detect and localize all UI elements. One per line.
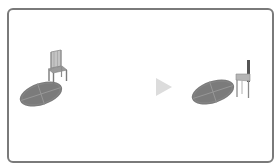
cropped-caption [20, 0, 260, 2]
chair-side-icon [236, 60, 250, 98]
left-scene [14, 44, 94, 116]
rug-and-chair-after-icon [186, 52, 262, 114]
rug-icon [17, 77, 66, 112]
right-scene [186, 52, 262, 114]
rug-and-chair-before-icon [14, 44, 94, 116]
transition-arrow [154, 76, 174, 98]
play-arrow-icon [154, 76, 174, 98]
chair-front-icon [48, 50, 67, 84]
rug-icon [189, 75, 238, 110]
